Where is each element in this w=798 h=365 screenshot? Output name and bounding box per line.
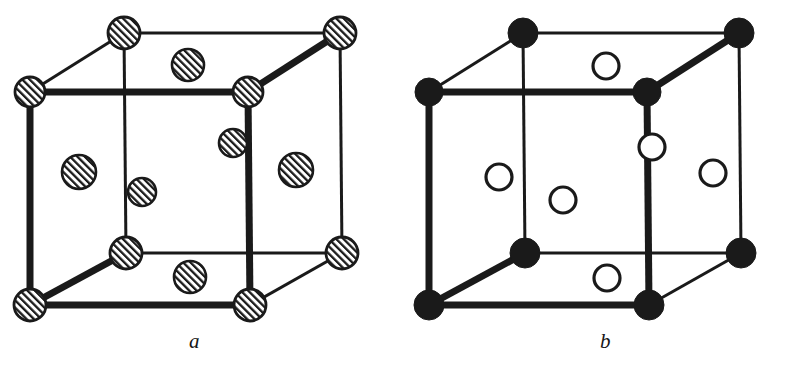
atom-corner-front-top-right <box>233 77 263 107</box>
atom-corner-front-top-left <box>15 77 45 107</box>
atom-corner-back-top-right <box>724 18 754 48</box>
atom-corner-front-bottom-left <box>14 289 46 321</box>
atom-front-face-center <box>550 187 576 213</box>
unit-cell-diagram-b <box>399 0 798 330</box>
atom-right-face-center <box>279 153 313 187</box>
atom-back-face-center <box>639 134 665 160</box>
cube-edge-back-right-vertical <box>340 33 342 253</box>
atom-corner-back-bottom-left <box>110 237 142 269</box>
atom-bottom-face-center <box>594 265 620 291</box>
atom-top-face-center <box>593 53 619 79</box>
cube-edge-bottom-right-receding <box>649 253 741 305</box>
atom-corner-front-top-right <box>633 78 661 106</box>
atom-corner-back-top-left <box>508 18 538 48</box>
atom-corner-front-bottom-right <box>234 289 266 321</box>
cube-edge-front-right-vertical <box>647 92 649 305</box>
atom-corner-front-bottom-right <box>634 290 664 320</box>
cube-edge-top-left-receding <box>429 33 523 92</box>
atom-corner-back-bottom-right <box>726 238 756 268</box>
panel-label-a: a <box>0 326 399 356</box>
atom-top-face-center <box>172 49 204 81</box>
cube-edge-bottom-left-receding <box>429 253 525 305</box>
cube-edge-front-right-vertical <box>248 92 250 305</box>
figure-canvas: a b <box>0 0 798 365</box>
atom-front-face-center <box>128 178 156 206</box>
atom-bottom-face-center <box>174 261 206 293</box>
cube-edge-back-left-vertical <box>124 33 126 253</box>
cube-edge-back-left-vertical <box>523 33 525 253</box>
atom-back-face-center <box>219 129 247 157</box>
atom-right-face-center <box>700 160 726 186</box>
panel-label-b: b <box>399 326 798 356</box>
unit-cell-diagram-a <box>0 0 399 330</box>
atom-corner-back-top-right <box>324 17 356 49</box>
cube-edge-back-right-vertical <box>739 33 741 253</box>
atom-left-face-center <box>62 155 96 189</box>
atom-corner-front-bottom-left <box>414 290 444 320</box>
unit-cell-panel-a: a <box>0 0 399 365</box>
cube-edge-top-right-receding <box>647 33 739 92</box>
atom-corner-back-top-left <box>108 17 140 49</box>
unit-cell-panel-b: b <box>399 0 798 365</box>
atom-corner-back-bottom-right <box>326 237 358 269</box>
atom-corner-back-bottom-left <box>510 238 540 268</box>
atom-corner-front-top-left <box>415 78 443 106</box>
atom-left-face-center <box>486 164 512 190</box>
